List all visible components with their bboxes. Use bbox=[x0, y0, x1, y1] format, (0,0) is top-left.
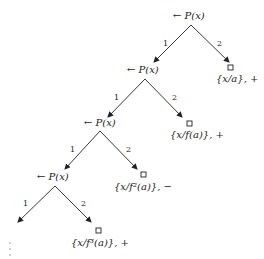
sld-tree-diagram: ← P(x) 1 2 {x/a}, + ← P(x) 1 2 {x/f(a)},… bbox=[0, 0, 264, 259]
goal-node-3: ← P(x) bbox=[84, 117, 116, 128]
edge-label-n1-l1: 2 bbox=[217, 39, 222, 48]
continuation-dot bbox=[9, 248, 10, 249]
edge-label-n3-n4: 1 bbox=[70, 145, 75, 154]
empty-clause-icon bbox=[228, 65, 233, 70]
goal-node-4: ← P(x) bbox=[37, 171, 69, 182]
edge-label-n4-l4: 2 bbox=[81, 199, 86, 208]
edge-label-n2-n3: 1 bbox=[114, 93, 119, 102]
empty-clause-icon bbox=[141, 172, 146, 177]
edge-label-n2-l2: 2 bbox=[172, 93, 177, 102]
leaf-label-4: {x/f³(a)}, + bbox=[71, 237, 129, 248]
edge-n3-l3 bbox=[100, 131, 137, 169]
leaf-label-1: {x/a}, + bbox=[216, 73, 258, 84]
continuation-dot bbox=[9, 242, 10, 243]
empty-clause-icon bbox=[96, 228, 101, 233]
continuation-dot bbox=[9, 254, 10, 255]
leaf-label-3: {x/f²(a)}, − bbox=[114, 181, 172, 192]
edge-label-n3-l3: 2 bbox=[126, 145, 131, 154]
edge-label-n4-cont: 1 bbox=[23, 199, 28, 208]
goal-node-2: ← P(x) bbox=[127, 64, 159, 75]
edge-n1-n2 bbox=[154, 25, 191, 62]
empty-clause-icon bbox=[187, 121, 192, 126]
edge-n1-l1 bbox=[191, 25, 229, 62]
edge-label-n1-n2: 1 bbox=[163, 39, 168, 48]
leaf-label-2: {x/f(a)}, + bbox=[170, 129, 224, 140]
goal-node-1: ← P(x) bbox=[173, 10, 205, 21]
